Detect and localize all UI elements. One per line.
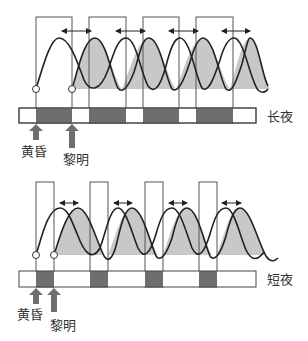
dusk-label: 黄昏 <box>21 144 47 159</box>
dawn-label: 黎明 <box>63 152 89 167</box>
dawn-label-short: 黎明 <box>50 318 76 333</box>
long-night-label: 长夜 <box>267 109 293 124</box>
dawn-arrow-icon <box>65 124 79 148</box>
short-night-label: 短夜 <box>267 272 293 287</box>
dusk-arrow-icon <box>29 124 43 140</box>
photoperiod-diagram: 黄昏 黎明 长夜 <box>0 0 308 341</box>
short-night-panel: 黄昏 黎明 短夜 <box>17 182 293 333</box>
dawn-start-marker-short <box>51 252 58 259</box>
dawn-start-marker <box>69 86 76 93</box>
light-dark-bar <box>19 108 256 123</box>
dusk-start-marker-short <box>33 252 40 259</box>
long-night-panel: 黄昏 黎明 长夜 <box>19 17 293 167</box>
dusk-label-short: 黄昏 <box>17 307 43 322</box>
light-dark-bar-short <box>19 271 256 287</box>
dusk-start-marker <box>33 86 40 93</box>
dawn-arrow-icon-short <box>47 288 61 312</box>
dusk-arrow-icon-short <box>29 288 43 304</box>
